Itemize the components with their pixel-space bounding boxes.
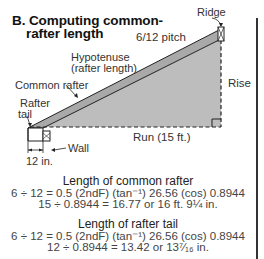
common-rafter-calculation: Length of common rafter 6 ÷ 12 = 0.5 (2n… <box>0 176 256 210</box>
wall-label: Wall <box>68 143 89 154</box>
calc-line: 12 ÷ 0.8944 = 13.42 or 13⁷⁄₁₆ in. <box>0 242 256 253</box>
pitch-label: 6/12 pitch <box>136 32 186 43</box>
run-label: Run (15 ft.) <box>133 132 191 143</box>
ridge-label: Ridge <box>197 7 226 18</box>
tail-dimension-label: 12 in. <box>26 156 53 167</box>
wall-leader <box>54 148 66 150</box>
rafter-tail-calculation: Length of rafter tail 6 ÷ 12 = 0.5 (2ndF… <box>0 219 256 253</box>
rafter-tail-label-line2: tail <box>18 109 32 120</box>
calc-heading: Length of common rafter <box>0 176 256 187</box>
ridge-leader <box>212 18 221 26</box>
common-rafter-label: Common rafter <box>15 80 88 91</box>
calc-heading: Length of rafter tail <box>0 219 256 230</box>
rise-label: Rise <box>228 78 251 89</box>
calc-line: 15 ÷ 0.8944 = 16.77 or 16 ft. 9¼ in. <box>0 199 256 210</box>
column-divider <box>256 18 258 259</box>
hypotenuse-label-line2: (rafter length) <box>71 63 137 74</box>
rafter-tail-shape <box>28 128 43 141</box>
